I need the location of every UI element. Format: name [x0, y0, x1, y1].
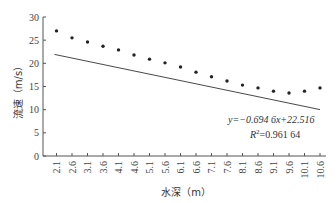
y-axis: 051015202530 [29, 12, 46, 162]
x-tick-label: 7.6 [222, 161, 233, 174]
x-tick-label: 2.6 [67, 161, 78, 174]
trendline-equation: y=−0.694 6x+22.516 [228, 114, 315, 125]
data-point [225, 79, 228, 82]
data-point [194, 70, 197, 73]
data-point [163, 61, 166, 64]
y-tick-label: 5 [34, 127, 39, 138]
y-tick-label: 20 [29, 58, 39, 69]
data-point [117, 48, 120, 51]
x-axis-title: 水深（m） [161, 187, 211, 198]
data-point [272, 89, 275, 92]
x-tick-label: 3.1 [82, 161, 93, 174]
data-point [318, 86, 321, 89]
x-tick-label: 4.1 [113, 161, 124, 174]
y-tick-label: 0 [34, 151, 39, 162]
x-tick-label: 9.1 [268, 161, 279, 174]
data-point [70, 36, 73, 39]
y-tick-label: 30 [29, 12, 39, 23]
x-tick-label: 10.6 [315, 161, 326, 179]
x-tick-label: 6.6 [191, 161, 202, 174]
r-squared-value: =0.961 64 [260, 129, 301, 140]
y-tick-label: 25 [29, 35, 39, 46]
data-point [55, 29, 58, 32]
y-tick-label: 10 [29, 104, 39, 115]
data-point [210, 75, 213, 78]
x-tick-label: 7.1 [206, 161, 217, 174]
data-point [86, 40, 89, 43]
data-point [132, 53, 135, 56]
x-tick-label: 2.1 [51, 161, 62, 174]
x-tick-label: 5.6 [160, 161, 171, 174]
x-axis: 2.12.63.13.64.14.65.15.66.16.67.17.68.18… [43, 153, 326, 179]
chart: 051015202530 2.12.63.13.64.14.65.15.66.1… [0, 0, 336, 203]
data-point [287, 91, 290, 94]
data-points [55, 29, 322, 94]
data-point [256, 86, 259, 89]
data-point [101, 44, 104, 47]
trendline [55, 54, 321, 109]
x-tick-label: 8.1 [237, 161, 248, 174]
x-tick-label: 10.1 [299, 161, 310, 179]
x-tick-label: 9.6 [284, 161, 295, 174]
y-tick-label: 15 [29, 81, 39, 92]
x-tick-label: 5.1 [144, 161, 155, 174]
x-tick-label: 3.6 [98, 161, 109, 174]
y-axis-title: 流速（m/s） [12, 61, 24, 119]
x-tick-label: 4.6 [129, 161, 140, 174]
data-point [241, 83, 244, 86]
data-point [303, 89, 306, 92]
x-tick-label: 8.6 [253, 161, 264, 174]
x-tick-label: 6.1 [175, 161, 186, 174]
r-squared-label: R2=0.961 64 [250, 128, 300, 140]
data-point [148, 57, 151, 60]
data-point [179, 65, 182, 68]
